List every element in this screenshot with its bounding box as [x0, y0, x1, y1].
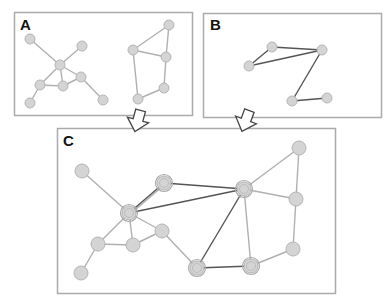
node — [75, 164, 89, 178]
node — [126, 238, 140, 252]
node — [58, 81, 68, 91]
panel-label-b: B — [210, 17, 221, 32]
node — [244, 61, 254, 71]
panel-boxes — [15, 13, 382, 294]
node — [128, 45, 138, 55]
node — [164, 20, 174, 30]
node — [35, 80, 45, 90]
node — [91, 237, 105, 251]
node — [76, 72, 86, 82]
node — [74, 266, 88, 280]
node — [289, 192, 303, 206]
node — [317, 45, 327, 55]
node — [161, 52, 171, 62]
node — [155, 224, 169, 238]
node — [159, 83, 169, 93]
node — [25, 98, 35, 108]
node — [322, 93, 332, 103]
node — [55, 60, 65, 70]
node — [267, 42, 277, 52]
node — [287, 96, 297, 106]
node — [77, 41, 87, 51]
node — [25, 34, 35, 44]
node — [133, 94, 143, 104]
panel-label-a: A — [20, 17, 31, 32]
node — [286, 242, 300, 256]
node — [292, 141, 306, 155]
network-merge-diagram — [0, 0, 392, 303]
panel-label-c: C — [63, 133, 74, 148]
node — [98, 95, 108, 105]
